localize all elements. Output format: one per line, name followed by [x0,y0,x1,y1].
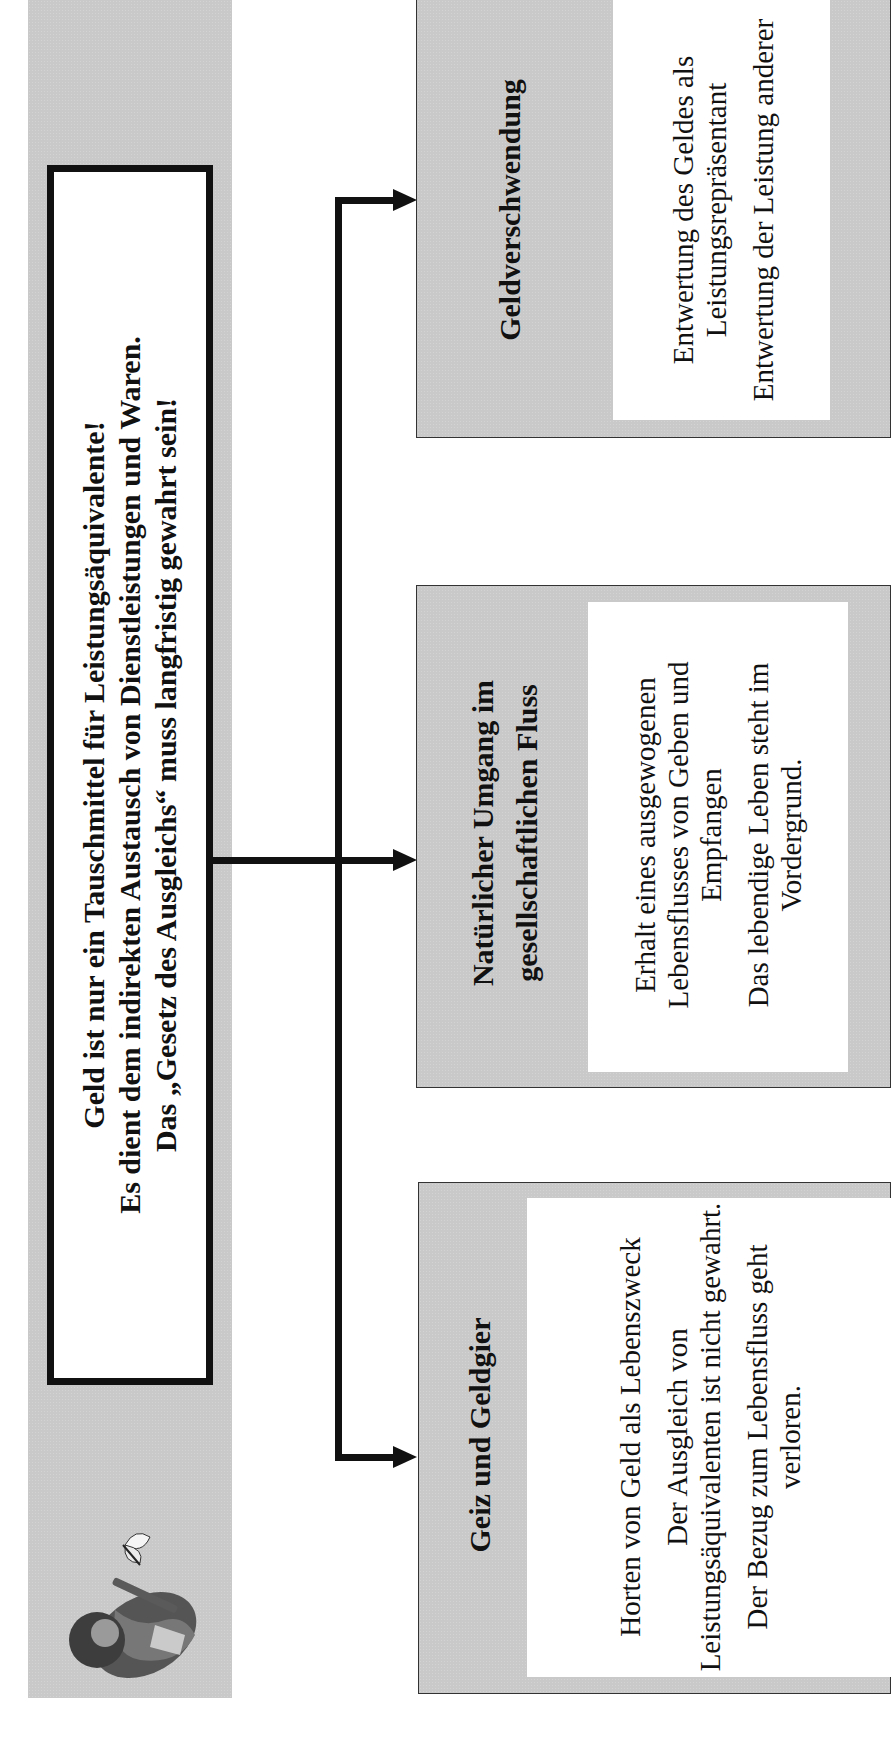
list-item: Horten von Geld als Lebenszweck [614,1202,647,1672]
arrow-to-natuerlicher-umgang-icon [393,849,417,871]
connector-branch-middle [335,857,395,864]
list-item: Entwertung der Leistung anderer [747,0,780,420]
connector-branch-bottom [335,1454,395,1461]
man-with-butterfly-illustration [45,1515,215,1690]
title-text: Geldverschwendung [490,0,530,420]
header-line-1: Geld ist nur ein Tauschmittel für Leistu… [76,173,112,1377]
box-geiz-und-geldgier-items: Horten von Geld als Lebenszweck Der Ausg… [540,1202,880,1672]
box-geldverschwendung-items: Entwertung des Geldes als Leistungsreprä… [618,0,828,420]
box-natuerlicher-umgang-title: Natürlicher Umgang im gesellschaftlichen… [430,598,580,1068]
list-item: Das lebendige Leben steht im Vordergrund… [742,610,808,1060]
connector-trunk [335,197,342,1461]
header-line-2: Es dient dem indirekten Austausch von Di… [112,173,148,1377]
list-item: Entwertung des Geldes als Leistungsreprä… [667,0,733,420]
list-item: Der Bezug zum Lebensfluss geht verloren. [741,1202,807,1672]
connector-branch-top [335,197,395,204]
list-item: Erhalt eines ausgewogenen Lebensflusses … [629,610,728,1060]
clipped-edge-text [0,1390,4,1510]
title-text: Geiz und Geldgier [460,1190,500,1680]
header-statement-text: Geld ist nur ein Tauschmittel für Leistu… [55,173,205,1377]
box-natuerlicher-umgang-items: Erhalt eines ausgewogenen Lebensflusses … [598,610,838,1060]
arrow-to-geldverschwendung-icon [393,189,417,211]
arrow-to-geiz-icon [393,1446,417,1468]
title-text: Natürlicher Umgang im gesellschaftlichen… [461,598,549,1068]
header-line-3: Das „Gesetz des Ausgleichs“ muss langfri… [148,173,184,1377]
list-item: Der Ausgleich von Leistungsäquivalenten … [661,1202,727,1672]
box-geldverschwendung-title: Geldverschwendung [435,0,585,420]
illustration-icon [45,1515,215,1690]
connector-stem [212,857,342,864]
box-geiz-und-geldgier-title: Geiz und Geldgier [430,1190,530,1680]
